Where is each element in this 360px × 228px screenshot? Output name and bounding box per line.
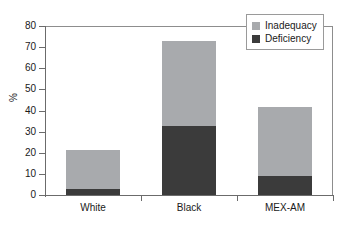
y-tick-label: 10 bbox=[0, 169, 36, 179]
bar-segment-inadequacy bbox=[162, 41, 216, 127]
y-tick-label: 60 bbox=[0, 63, 36, 73]
x-tick-label-white: White bbox=[48, 202, 138, 214]
y-tick-mark bbox=[39, 132, 45, 133]
x-tick-label-mex-am: MEX-AM bbox=[240, 202, 330, 214]
bar-segment-deficiency bbox=[162, 126, 216, 195]
x-axis-line bbox=[45, 195, 334, 196]
legend-item-deficiency: Deficiency bbox=[252, 32, 317, 45]
bar-segment-inadequacy bbox=[66, 150, 120, 189]
legend-item-inadequacy: Inadequacy bbox=[252, 19, 317, 32]
bar-white bbox=[66, 150, 120, 195]
y-tick-label: 50 bbox=[0, 84, 36, 94]
y-tick-label: 40 bbox=[0, 106, 36, 116]
legend-label: Inadequacy bbox=[265, 20, 317, 31]
y-tick-label: 80 bbox=[0, 21, 36, 31]
bar-mex-am bbox=[258, 107, 312, 195]
y-tick-mark bbox=[39, 68, 45, 69]
y-tick-mark bbox=[39, 153, 45, 154]
y-tick-mark bbox=[39, 174, 45, 175]
bar-segment-deficiency bbox=[66, 189, 120, 195]
legend-swatch-deficiency bbox=[252, 35, 260, 43]
bar-black bbox=[162, 41, 216, 195]
stacked-bar-chart: % 01020304050607080 WhiteBlackMEX-AM Ina… bbox=[0, 0, 360, 228]
x-tick-label-black: Black bbox=[144, 202, 234, 214]
bar-segment-inadequacy bbox=[258, 107, 312, 176]
y-tick-label: 70 bbox=[0, 42, 36, 52]
y-tick-mark bbox=[39, 111, 45, 112]
y-tick-label: 0 bbox=[0, 190, 36, 200]
y-tick-mark bbox=[39, 47, 45, 48]
y-tick-mark bbox=[39, 26, 45, 27]
y-tick-label: 20 bbox=[0, 148, 36, 158]
x-tick-mark bbox=[237, 196, 238, 201]
bar-segment-deficiency bbox=[258, 176, 312, 195]
legend-swatch-inadequacy bbox=[252, 22, 260, 30]
y-axis-line bbox=[45, 26, 46, 197]
x-tick-mark bbox=[141, 196, 142, 201]
y-tick-mark bbox=[39, 195, 45, 196]
y-tick-label: 30 bbox=[0, 127, 36, 137]
legend-label: Deficiency bbox=[265, 33, 311, 44]
y-tick-mark bbox=[39, 89, 45, 90]
chart-legend: InadequacyDeficiency bbox=[246, 14, 324, 50]
x-tick-mark bbox=[333, 196, 334, 201]
